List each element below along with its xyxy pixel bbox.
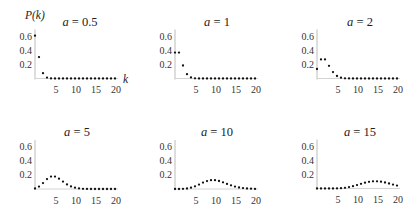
data-point (202, 181, 204, 183)
data-point (214, 77, 216, 79)
data-point (86, 188, 88, 190)
y-tick-label: 0.2 (20, 59, 33, 70)
x-tick-label: 15 (231, 84, 241, 95)
data-point (364, 182, 366, 184)
x-tick-label: 5 (54, 84, 59, 95)
data-point (114, 188, 116, 190)
panel-title: a = 0.5 (62, 15, 97, 29)
data-point (206, 77, 208, 79)
data-points (316, 58, 398, 79)
data-point (340, 77, 342, 79)
data-point (50, 77, 52, 79)
data-point (78, 187, 80, 189)
data-point (242, 77, 244, 79)
data-point (58, 178, 60, 180)
data-point (360, 183, 362, 185)
x-tick-label: 15 (373, 84, 383, 95)
data-point (54, 175, 56, 177)
x-tick-label: 20 (111, 84, 121, 95)
y-tick-label: 0.4 (20, 155, 33, 166)
data-point (328, 187, 330, 189)
data-point (94, 188, 96, 190)
data-point (348, 186, 350, 188)
data-point (174, 51, 176, 53)
y-tick-label: 0.4 (160, 155, 173, 166)
y-tick-label: 0.6 (20, 31, 33, 42)
data-point (46, 76, 48, 78)
data-point (368, 181, 370, 183)
data-point (202, 77, 204, 79)
panel-a-2: a = 2 0.2 0.4 0.6 5 10 15 20 (302, 15, 404, 96)
data-point (62, 180, 64, 182)
panel-a-10: a = 10 0.2 0.4 0.6 5 10 15 20 (160, 125, 262, 206)
data-point (66, 183, 68, 185)
data-point (42, 182, 44, 184)
data-point (82, 188, 84, 190)
data-point (106, 188, 108, 190)
y-tick-label: 0.6 (160, 141, 173, 152)
data-point (218, 180, 220, 182)
x-tick-label: 10 (353, 84, 363, 95)
x-tick-label: 5 (194, 195, 199, 206)
data-point (376, 180, 378, 182)
data-point (340, 187, 342, 189)
data-point (106, 77, 108, 79)
data-point (82, 77, 84, 79)
y-tick-label: 0.2 (160, 59, 173, 70)
data-point (70, 185, 72, 187)
data-point (110, 188, 112, 190)
x-tick-label: 15 (231, 195, 241, 206)
panel-title: a = 1 (204, 15, 230, 29)
data-point (186, 73, 188, 75)
data-point (66, 77, 68, 79)
data-point (174, 188, 176, 190)
data-point (250, 188, 252, 190)
data-point (328, 65, 330, 67)
data-point (396, 77, 398, 79)
data-point (194, 185, 196, 187)
data-point (332, 71, 334, 73)
panel-a-5: a = 5 0.2 0.4 0.6 5 10 15 20 (20, 125, 122, 206)
panel-title: a = 5 (64, 125, 90, 139)
data-point (62, 77, 64, 79)
data-point (388, 182, 390, 184)
x-tick-label: 5 (336, 194, 341, 205)
data-point (234, 185, 236, 187)
data-point (222, 77, 224, 79)
data-points (34, 35, 116, 80)
data-point (384, 181, 386, 183)
data-point (210, 179, 212, 181)
data-point (178, 188, 180, 190)
data-point (376, 77, 378, 79)
panel-a-15: a = 15 0.2 0.4 0.6 5 10 15 20 (302, 125, 404, 206)
x-tick-label: 10 (211, 195, 221, 206)
data-point (206, 180, 208, 182)
x-tick-label: 10 (71, 195, 81, 206)
x-tick-label: 10 (211, 84, 221, 95)
y-tick-label: 0.6 (302, 31, 315, 42)
data-point (110, 77, 112, 79)
data-point (360, 77, 362, 79)
x-tick-label: 20 (111, 195, 121, 206)
data-point (332, 187, 334, 189)
data-point (178, 51, 180, 53)
x-axis-label: k (123, 73, 129, 85)
x-tick-label: 5 (336, 84, 341, 95)
data-point (198, 77, 200, 79)
data-point (194, 77, 196, 79)
data-point (114, 77, 116, 79)
data-point (352, 77, 354, 79)
data-point (34, 187, 36, 189)
data-point (98, 188, 100, 190)
data-points (34, 175, 116, 190)
y-tick-label: 0.4 (302, 155, 315, 166)
x-tick-label: 10 (353, 194, 363, 205)
data-point (98, 77, 100, 79)
y-axis-label: P(k) (24, 9, 45, 22)
data-point (70, 77, 72, 79)
data-point (50, 175, 52, 177)
data-point (246, 187, 248, 189)
data-point (74, 187, 76, 189)
data-point (226, 77, 228, 79)
panel-title: a = 10 (201, 125, 233, 139)
